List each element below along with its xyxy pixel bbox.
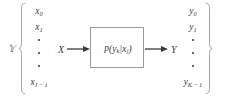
- output-ellipsis-dot-2: [192, 52, 194, 54]
- channel-close-paren: ): [129, 44, 132, 54]
- output-arrow: [145, 44, 169, 54]
- output-brace: [205, 2, 213, 95]
- input-ellipsis-dot-2: [38, 52, 40, 54]
- output-element-0: y0: [180, 7, 206, 17]
- channel-in-sub: j: [127, 47, 129, 54]
- input-ellipsis-dot-1: [38, 39, 40, 41]
- output-set-label: 𝕑: [214, 43, 226, 57]
- input-element-1: x1: [26, 23, 52, 33]
- output-ellipsis-dot-1: [192, 39, 194, 41]
- channel-box: p(yk|xj): [90, 27, 144, 68]
- input-arrow: [67, 44, 91, 54]
- script-x-glyph: 𝕐: [7, 43, 18, 54]
- svg-text:𝕐: 𝕐: [8, 43, 17, 54]
- script-y-glyph: 𝕑: [214, 43, 226, 55]
- output-arrow-label: Y: [171, 44, 177, 55]
- input-arrow-label: X: [58, 44, 64, 55]
- channel-expression: p(yk|xj): [91, 28, 145, 69]
- input-element-last: xJ − 1: [24, 78, 54, 88]
- channel-diagram: 𝕐 X x0 x1 xJ − 1 X p(yk|xj) p(y_k|x_j) Y: [0, 0, 231, 97]
- channel-out-sub: k: [117, 47, 120, 54]
- output-element-1: y1: [180, 23, 206, 33]
- input-element-0: x0: [26, 7, 52, 17]
- input-set-label: 𝕐: [7, 43, 18, 56]
- output-ellipsis-dot-3: [192, 65, 194, 67]
- input-ellipsis-dot-3: [38, 65, 40, 67]
